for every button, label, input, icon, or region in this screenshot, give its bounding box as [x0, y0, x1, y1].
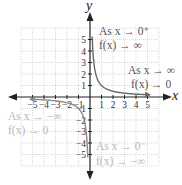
annotation-left-near-zero-line1: As x → 0⁻	[96, 140, 146, 152]
x-axis-label: x	[172, 88, 178, 104]
svg-text:4: 4	[134, 100, 139, 110]
svg-text:2: 2	[111, 100, 116, 110]
annotation-right-infinity-line2: f(x) → 0	[131, 78, 171, 90]
svg-text:−5: −5	[27, 100, 37, 110]
annotation-left-near-zero-line2: f(x) → −∞	[96, 155, 145, 167]
svg-text:5: 5	[145, 100, 150, 110]
svg-text:3: 3	[81, 58, 86, 68]
svg-text:3: 3	[122, 100, 127, 110]
svg-text:1: 1	[81, 81, 86, 91]
svg-text:−4: −4	[39, 100, 49, 110]
y-axis-label: y	[86, 0, 92, 14]
annotation-left-infinity-line2: f(x) → 0	[8, 124, 48, 136]
svg-text:−5: −5	[76, 150, 86, 160]
svg-text:4: 4	[81, 47, 86, 57]
svg-text:−4: −4	[76, 139, 86, 149]
svg-text:2: 2	[81, 70, 86, 80]
svg-text:5: 5	[81, 35, 86, 45]
reciprocal-function-graph: −5−4−3−2−11234554321−1−2−3−4−5	[0, 0, 182, 185]
annotation-left-infinity-line1: As x → −∞	[8, 110, 61, 122]
svg-text:1: 1	[99, 100, 104, 110]
annotation-right-near-zero-line2: f(x) → ∞	[99, 39, 142, 51]
svg-text:−3: −3	[76, 127, 86, 137]
annotation-right-near-zero-line1: As x → 0⁺	[99, 25, 149, 37]
annotation-right-infinity-line1: As x → ∞	[128, 64, 175, 76]
